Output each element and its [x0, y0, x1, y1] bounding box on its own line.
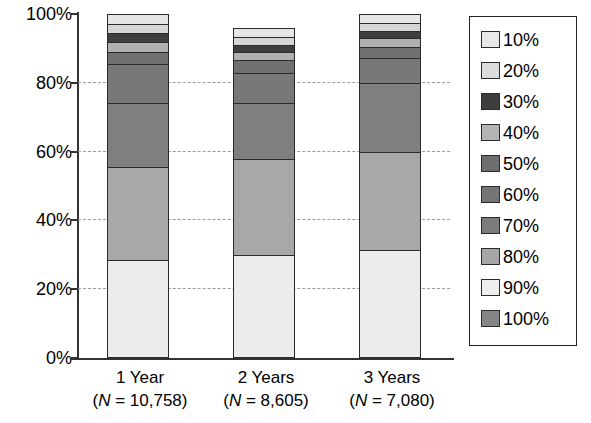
bar-segment-40pct[interactable]: [108, 42, 168, 52]
legend-item-60pct[interactable]: 60%: [470, 179, 576, 210]
stacked-bar-chart: 100% 80% 60% 40% 20% 0% 1 Year (N = 10,7…: [0, 0, 591, 423]
bar-segment-30pct[interactable]: [234, 45, 294, 52]
bar-segment-50pct[interactable]: [360, 47, 420, 58]
bar-segment-40pct[interactable]: [360, 38, 420, 47]
legend-label: 100%: [503, 310, 549, 328]
bar-segment-50pct[interactable]: [108, 52, 168, 64]
x-axis-label-3: 3 Years: [330, 366, 454, 389]
bar-segment-90pct[interactable]: [108, 260, 168, 358]
legend-swatch-icon: [481, 93, 500, 110]
x-axis-label-group-2: 2 Years (N = 8,605): [204, 366, 328, 412]
bar-segment-10pct[interactable]: [108, 14, 168, 24]
bar-segment-60pct[interactable]: [234, 73, 294, 104]
legend-item-10pct[interactable]: 10%: [470, 24, 576, 55]
plot-area: [78, 14, 450, 358]
legend-swatch-icon: [481, 279, 500, 296]
legend-label: 90%: [503, 279, 539, 297]
legend-item-100pct[interactable]: 100%: [470, 303, 576, 334]
legend: 10%20%30%40%50%60%70%80%90%100%: [469, 16, 577, 346]
legend-swatch-icon: [481, 248, 500, 265]
y-tick-label-100: 100%: [26, 5, 72, 23]
x-axis-sublabel-1: (N = 10,758): [78, 389, 202, 412]
x-axis-label-group-3: 3 Years (N = 7,080): [330, 366, 454, 412]
y-tick-mark-100: [70, 13, 78, 15]
legend-label: 70%: [503, 217, 539, 235]
bar-column-2-years[interactable]: [233, 28, 295, 358]
legend-label: 50%: [503, 155, 539, 173]
y-tick-label-80: 80%: [36, 74, 72, 92]
legend-item-80pct[interactable]: 80%: [470, 241, 576, 272]
bar-segment-10pct[interactable]: [360, 14, 420, 23]
legend-label: 10%: [503, 31, 539, 49]
y-tick-label-0: 0%: [46, 349, 72, 367]
y-tick-label-40: 40%: [36, 211, 72, 229]
y-tick-mark-40: [70, 219, 78, 221]
bar-segment-20pct[interactable]: [108, 24, 168, 33]
legend-label: 60%: [503, 186, 539, 204]
bar-segment-80pct[interactable]: [108, 167, 168, 260]
legend-label: 40%: [503, 124, 539, 142]
y-tick-mark-0: [70, 357, 78, 359]
x-axis-label-group-1: 1 Year (N = 10,758): [78, 366, 202, 412]
bar-segment-20pct[interactable]: [234, 37, 294, 45]
y-axis-line: [77, 12, 79, 360]
y-tick-label-20: 20%: [36, 280, 72, 298]
bar-segment-30pct[interactable]: [108, 33, 168, 42]
legend-label: 20%: [503, 62, 539, 80]
bar-segment-70pct[interactable]: [108, 103, 168, 167]
bar-segment-90pct[interactable]: [360, 250, 420, 358]
bar-segment-70pct[interactable]: [360, 83, 420, 152]
x-axis-sublabel-3: (N = 7,080): [330, 389, 454, 412]
y-tick-mark-80: [70, 82, 78, 84]
bar-segment-70pct[interactable]: [234, 103, 294, 158]
x-axis-label-2: 2 Years: [204, 366, 328, 389]
legend-item-40pct[interactable]: 40%: [470, 117, 576, 148]
bar-segment-50pct[interactable]: [234, 60, 294, 72]
bar-segment-80pct[interactable]: [360, 152, 420, 250]
legend-item-50pct[interactable]: 50%: [470, 148, 576, 179]
bar-segment-30pct[interactable]: [360, 31, 420, 38]
x-axis-sublabel-2: (N = 8,605): [204, 389, 328, 412]
y-tick-label-60: 60%: [36, 143, 72, 161]
y-axis-tick-labels: 100% 80% 60% 40% 20% 0%: [0, 0, 72, 423]
bar-segment-60pct[interactable]: [360, 58, 420, 83]
legend-item-20pct[interactable]: 20%: [470, 55, 576, 86]
bar-column-3-years[interactable]: [359, 14, 421, 358]
y-tick-mark-20: [70, 288, 78, 290]
bar-segment-10pct[interactable]: [234, 28, 294, 37]
bar-segment-40pct[interactable]: [234, 52, 294, 61]
legend-swatch-icon: [481, 62, 500, 79]
legend-swatch-icon: [481, 155, 500, 172]
legend-swatch-icon: [481, 310, 500, 327]
legend-item-90pct[interactable]: 90%: [470, 272, 576, 303]
legend-swatch-icon: [481, 124, 500, 141]
bar-segment-60pct[interactable]: [108, 64, 168, 104]
x-axis-label-1: 1 Year: [78, 366, 202, 389]
legend-swatch-icon: [481, 186, 500, 203]
bar-segment-80pct[interactable]: [234, 159, 294, 255]
bar-segment-90pct[interactable]: [234, 255, 294, 358]
y-tick-mark-60: [70, 151, 78, 153]
bar-segment-20pct[interactable]: [360, 23, 420, 31]
legend-label: 30%: [503, 93, 539, 111]
legend-item-30pct[interactable]: 30%: [470, 86, 576, 117]
legend-swatch-icon: [481, 31, 500, 48]
legend-item-70pct[interactable]: 70%: [470, 210, 576, 241]
legend-swatch-icon: [481, 217, 500, 234]
x-axis-line: [70, 358, 454, 360]
legend-label: 80%: [503, 248, 539, 266]
bar-column-1-year[interactable]: [107, 14, 169, 358]
